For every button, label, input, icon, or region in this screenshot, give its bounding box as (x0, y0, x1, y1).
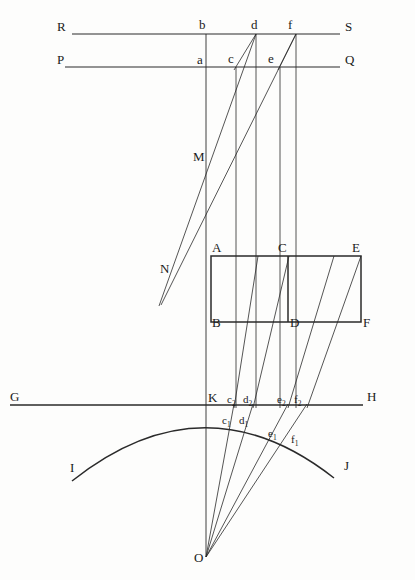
label-f2: f2 (294, 393, 302, 408)
label-C: C (278, 240, 287, 255)
long-diagonals-group (234, 256, 361, 408)
label-A: A (212, 240, 222, 255)
label-I: I (70, 460, 74, 475)
label-c2: c2 (227, 393, 236, 408)
label-f: f (288, 17, 293, 32)
short-connectors-group (234, 34, 296, 70)
labels-group: R S P Q b d f a c e M N A C E B D F G H … (10, 17, 376, 565)
label-f1: f1 (291, 433, 299, 448)
label-N: N (160, 261, 170, 276)
connector-f-to-e (278, 34, 296, 70)
label-J: J (344, 458, 349, 473)
label-D: D (290, 315, 299, 330)
label-e: e (268, 51, 274, 66)
diagonal-from-d2-upward (253, 256, 289, 408)
horizontal-lines-group (10, 34, 363, 405)
diagonal-from-e2-upward (288, 256, 334, 408)
label-S: S (345, 19, 352, 34)
label-d2-sub: 2 (249, 399, 253, 408)
label-d1-sub: 1 (245, 420, 249, 429)
geometric-diagram: R S P Q b d f a c e M N A C E B D F G H … (0, 0, 415, 580)
label-Q: Q (345, 52, 355, 67)
label-M: M (193, 149, 205, 164)
ray-O-to-f2 (206, 404, 307, 557)
label-c1-sub: 1 (227, 420, 231, 429)
label-f2-sub: 2 (298, 399, 302, 408)
label-f1-sub: 1 (295, 439, 299, 448)
label-O: O (194, 550, 203, 565)
label-R: R (57, 19, 66, 34)
label-E: E (352, 240, 360, 255)
label-e1-sub: 1 (273, 433, 277, 442)
label-e2: e2 (277, 393, 286, 408)
label-d: d (251, 17, 258, 32)
label-G: G (10, 389, 19, 404)
diagram-canvas: R S P Q b d f a c e M N A C E B D F G H … (0, 0, 415, 580)
label-B: B (212, 315, 221, 330)
slant-lines-group (159, 34, 296, 306)
label-H: H (367, 389, 376, 404)
slant-d-to-N (159, 34, 256, 306)
label-F: F (363, 315, 370, 330)
label-d2: d2 (243, 393, 253, 408)
label-e2-sub: 2 (282, 399, 286, 408)
rectangle-ABFE (211, 256, 361, 322)
diagonal-from-f2-upward (307, 256, 361, 408)
rectangle-ABFE-group (211, 256, 361, 322)
label-c1: c1 (222, 414, 231, 429)
label-c: c (228, 51, 234, 66)
label-a: a (197, 52, 203, 67)
label-d1: d1 (239, 414, 249, 429)
label-P: P (57, 52, 64, 67)
rays-from-O-group (206, 404, 307, 557)
label-b: b (199, 17, 206, 32)
label-c2-sub: 2 (232, 399, 236, 408)
vertical-lines-group (206, 34, 296, 557)
slant-f-to-N (161, 34, 296, 305)
label-K: K (208, 390, 218, 405)
diagonal-from-c2-upward (234, 256, 258, 408)
arc-IKJ (72, 428, 334, 481)
